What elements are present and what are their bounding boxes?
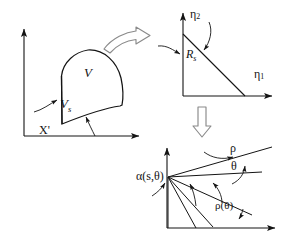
curved-arrow-outline — [104, 27, 150, 53]
figure-root: V Vs X' η2 η1 Rs α(s,θ) ρ θ ρ(θ) — [0, 0, 286, 244]
ray-lower-1 — [168, 177, 196, 228]
label-point-X-prime: X' — [39, 124, 50, 136]
ray-rho-of-theta — [168, 177, 252, 215]
label-surface-Vs: Vs — [60, 97, 71, 110]
label-volume-V: V — [84, 66, 92, 79]
label-alpha-s-theta: α(s,θ) — [136, 170, 164, 182]
simplex-hypotenuse — [183, 34, 245, 96]
label-rho: ρ — [230, 142, 236, 154]
label-axis-eta2: η2 — [190, 8, 200, 20]
figure-canvas — [0, 0, 286, 244]
arc-to-rho — [204, 152, 233, 158]
leader-to-bottom-surface — [86, 117, 95, 136]
leader-to-Vs — [34, 100, 57, 112]
label-rho-of-theta: ρ(θ) — [215, 200, 233, 211]
polar-domain-axes — [167, 148, 275, 228]
label-axis-eta1: η1 — [254, 68, 264, 80]
label-theta: θ — [231, 160, 237, 172]
polar-domain-rays — [168, 147, 272, 228]
label-surface-Vs-base: V — [60, 96, 68, 111]
block-arrow-down — [193, 107, 211, 137]
mapped-domain-leaders — [158, 22, 211, 54]
mapped-domain-triangle — [183, 34, 245, 96]
label-axis-eta2-sub: 2 — [196, 12, 200, 21]
label-region-Rs-sub: s — [193, 54, 196, 63]
label-surface-Vs-sub: s — [68, 104, 71, 114]
leader-to-alpha — [152, 183, 165, 196]
label-region-Rs: Rs — [186, 48, 196, 60]
curved-block-arrow-right — [104, 27, 150, 53]
leader-to-Rs — [158, 46, 180, 54]
down-arrow-outline — [193, 107, 211, 137]
label-axis-eta1-sub: 1 — [260, 72, 264, 81]
leader-to-hypotenuse — [204, 22, 211, 50]
